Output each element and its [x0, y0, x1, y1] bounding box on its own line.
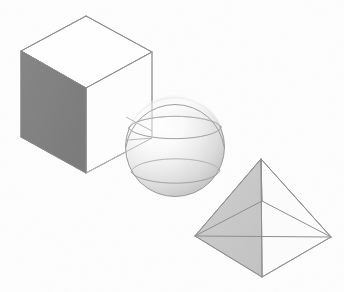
paper-grain-overlay [0, 0, 344, 292]
geometric-solids-svg [0, 0, 344, 292]
illustration-canvas: Geometric Solids Illustration Line drawi… [0, 0, 344, 292]
